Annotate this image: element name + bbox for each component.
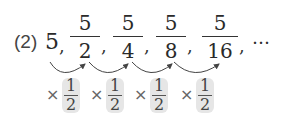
ratio-fraction-2: 1 2 [106,78,124,113]
ratio-fraction-3: 1 2 [150,78,168,113]
ratio-fraction-1: 1 2 [62,78,80,113]
times-sign: × [90,85,103,104]
denominator: 2 [150,97,168,113]
times-sign: × [180,85,193,104]
arrow-3 [132,62,172,73]
denominator: 2 [106,97,124,113]
times-sign: × [134,85,147,104]
arrow-2 [89,62,128,73]
times-sign: × [46,85,59,104]
denominator: 2 [62,97,80,113]
ratio-fraction-4: 1 2 [196,78,214,113]
arrow-1 [50,62,85,73]
numerator: 1 [62,78,80,94]
numerator: 1 [196,78,214,94]
arrow-4 [174,62,219,73]
numerator: 1 [106,78,124,94]
numerator: 1 [150,78,168,94]
denominator: 2 [196,97,214,113]
